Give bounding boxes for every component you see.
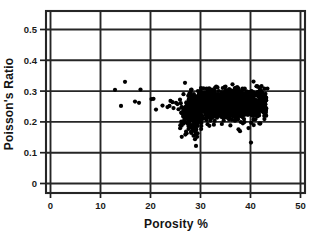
data-point [249,140,253,144]
data-point [225,109,229,113]
data-point [206,109,210,113]
data-point [228,107,232,111]
data-point [123,80,127,84]
data-point [243,94,247,98]
data-point [186,107,190,111]
data-point [197,112,201,116]
data-point [238,129,242,133]
x-tick-label: 30 [195,200,206,211]
y-tick-label: 0.2 [24,116,37,127]
data-point [246,126,250,130]
data-point [183,132,187,136]
data-point [199,127,203,131]
data-point [221,107,225,111]
data-point [252,123,256,127]
data-point [189,87,193,91]
data-point [133,99,137,103]
data-point [215,85,219,89]
data-point [238,99,242,103]
data-point [204,99,208,103]
x-tick-label: 10 [95,200,106,211]
data-point [240,87,244,91]
data-point [190,101,194,105]
data-point [249,95,253,99]
data-point [252,104,256,108]
data-point [237,106,241,110]
y-tick-label: 0.1 [24,147,38,158]
data-point [241,121,245,125]
x-tick-label: 40 [245,200,256,211]
data-point [247,101,251,105]
data-point [259,89,263,93]
data-point [220,122,224,126]
data-point [204,87,208,91]
data-point [200,94,204,98]
x-tick-label: 0 [48,200,53,211]
y-tick-label: 0.3 [24,86,37,97]
data-point [232,110,236,114]
data-point [220,102,224,106]
data-point [245,89,249,93]
data-point [204,118,208,122]
data-point [234,96,238,100]
scatter-plot-figure: 01020304050 00.10.20.30.40.5 Porosity % … [0,0,314,232]
data-point [212,123,216,127]
y-tick-label: 0.4 [24,55,38,66]
data-point [180,124,184,128]
data-point [262,117,266,121]
data-point [223,91,227,95]
data-point [175,102,179,106]
data-point [195,131,199,135]
data-point [233,87,237,91]
data-point [224,103,228,107]
data-point [251,79,255,83]
data-point [160,103,164,107]
data-point [210,106,214,110]
x-tick-label: 50 [295,200,306,211]
data-point [258,106,262,110]
data-point [178,98,182,102]
chart-canvas: 01020304050 00.10.20.30.40.5 Porosity % … [0,0,314,232]
data-point [193,137,197,141]
data-point [256,92,260,96]
data-point [212,99,216,103]
data-point [242,113,246,117]
data-point [167,104,171,108]
data-point [154,107,158,111]
data-point [262,94,266,98]
data-point [228,123,232,127]
data-point [190,123,194,127]
data-point [185,121,189,125]
data-point [227,117,231,121]
data-point [194,144,198,148]
data-point [258,121,262,125]
data-point [199,86,203,90]
data-point [250,109,254,113]
data-point [262,109,266,113]
data-point [223,84,227,88]
data-point [170,100,174,104]
data-point [255,84,259,88]
data-point [252,92,256,96]
data-point [194,126,198,130]
data-point [216,109,220,113]
data-point [206,113,210,117]
x-tick-label: 20 [145,200,156,211]
data-point [179,105,183,109]
data-point [183,81,187,85]
data-point [119,104,123,108]
data-point [151,97,155,101]
data-point [217,89,221,93]
data-point [171,106,175,110]
data-point [242,117,246,121]
data-point [207,124,211,128]
data-point [180,135,184,139]
data-point [181,92,185,96]
data-point [215,116,219,120]
data-point [236,117,240,121]
data-point [113,88,117,92]
data-point [191,94,195,98]
data-point [230,82,234,86]
data-point [196,118,200,122]
data-point [229,88,233,92]
